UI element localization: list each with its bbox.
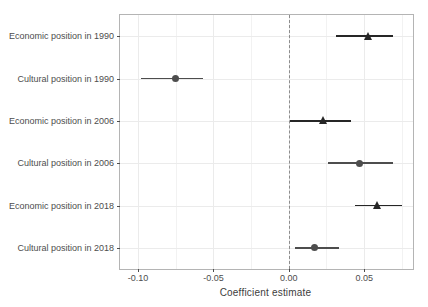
x-gridline-minor [326, 15, 327, 269]
plot-panel: -0.10-0.050.000.05Economic position in 1… [119, 14, 414, 270]
estimate-marker [311, 244, 318, 251]
x-tick-label: 0.05 [355, 274, 373, 283]
zero-reference-line [289, 15, 290, 269]
x-gridline-major [138, 15, 139, 269]
x-gridline-minor [176, 15, 177, 269]
x-tick-label: 0.00 [280, 274, 298, 283]
y-gridline-major [120, 248, 413, 249]
estimate-marker [172, 75, 179, 82]
y-gridline-major [120, 121, 413, 122]
estimate-marker [356, 160, 363, 167]
x-tick-mark [364, 269, 365, 272]
y-tick-mark [117, 79, 120, 80]
x-gridline-major [364, 15, 365, 269]
x-axis-title: Coefficient estimate [119, 287, 412, 298]
y-tick-mark [117, 163, 120, 164]
y-tick-label: Economic position in 1990 [9, 32, 114, 41]
estimate-marker [364, 32, 372, 40]
y-tick-label: Economic position in 2006 [9, 116, 114, 125]
y-tick-label: Cultural position in 2018 [17, 243, 114, 252]
y-tick-mark [117, 121, 120, 122]
coefficient-plot-figure: -0.10-0.050.000.05Economic position in 1… [0, 0, 428, 307]
x-tick-mark [213, 269, 214, 272]
x-tick-label: -0.05 [203, 274, 224, 283]
x-gridline-minor [251, 15, 252, 269]
y-tick-label: Economic position in 2018 [9, 201, 114, 210]
y-tick-mark [117, 36, 120, 37]
x-tick-mark [289, 269, 290, 272]
y-tick-mark [117, 206, 120, 207]
y-tick-label: Cultural position in 2006 [17, 159, 114, 168]
x-axis-title-text: Coefficient estimate [220, 287, 312, 298]
estimate-marker [319, 116, 327, 124]
x-tick-mark [138, 269, 139, 272]
y-tick-mark [117, 248, 120, 249]
x-tick-label: -0.10 [128, 274, 149, 283]
x-gridline-minor [402, 15, 403, 269]
y-tick-label: Cultural position in 1990 [17, 74, 114, 83]
x-gridline-major [213, 15, 214, 269]
estimate-marker [373, 201, 381, 209]
